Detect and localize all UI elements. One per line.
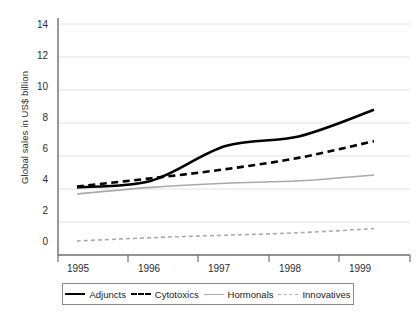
legend-item-adjuncts[interactable]: Adjuncts [65, 289, 125, 300]
legend-swatch-cytotoxics-icon [131, 293, 151, 295]
x-tick-label-1997: 1997 [189, 263, 249, 274]
x-tick-label-1995: 1995 [48, 263, 108, 274]
series-line-innovatives [77, 229, 374, 241]
legend-swatch-innovatives-icon [278, 294, 298, 295]
legend-item-innovatives[interactable]: Innovatives [278, 289, 350, 300]
series-line-cytotoxics [77, 141, 374, 186]
gridlines [58, 24, 410, 222]
chart-legend: Adjuncts Cytotoxics Hormonals Innovative… [62, 283, 354, 305]
legend-item-hormonals[interactable]: Hormonals [204, 289, 274, 300]
legend-label-adjuncts: Adjuncts [89, 289, 125, 300]
legend-label-innovatives: Innovatives [302, 289, 350, 300]
legend-label-cytotoxics: Cytotoxics [155, 289, 199, 300]
legend-swatch-adjuncts-icon [65, 293, 85, 295]
series-line-adjuncts [77, 110, 374, 188]
x-tick-label-1999: 1999 [330, 263, 390, 274]
legend-swatch-hormonals-icon [204, 294, 224, 295]
series-lines [77, 110, 374, 241]
chart-figure: Global sales in US$ billion 14 12 10 8 6… [0, 0, 416, 314]
axis-lines [58, 18, 410, 262]
x-tick-label-1996: 1996 [119, 263, 179, 274]
legend-item-cytotoxics[interactable]: Cytotoxics [131, 289, 199, 300]
x-tick-label-1998: 1998 [260, 263, 320, 274]
legend-label-hormonals: Hormonals [228, 289, 274, 300]
